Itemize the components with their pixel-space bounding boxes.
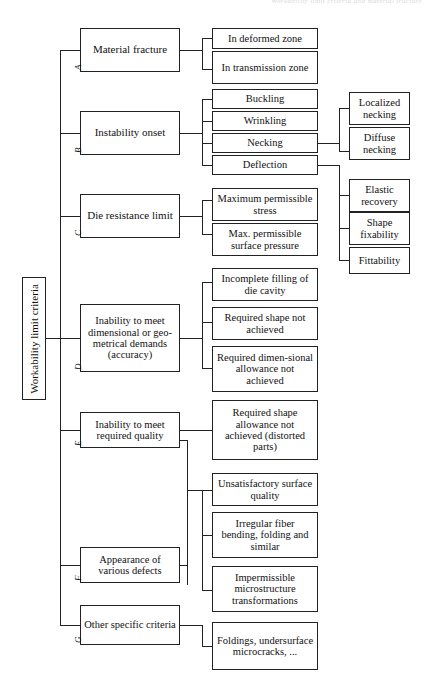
connector-c-c1 — [202, 200, 212, 201]
connector-necking-spine — [339, 108, 340, 151]
connector-spine-b — [60, 133, 80, 134]
branch-tag-a: A — [74, 65, 83, 71]
box-b4-label: Deflection — [216, 159, 314, 170]
page-header-fragment: Workability limit criteria and material … — [0, 0, 426, 9]
box-c1-maximum-permissible-stress[interactable]: Maximum permissible stress — [212, 188, 318, 221]
branch-tag-c: C — [74, 230, 83, 236]
box-n3-elastic-recovery[interactable]: Elastic recovery — [349, 179, 410, 212]
connector-deflection-n4 — [339, 228, 349, 229]
connector-e-e1 — [202, 430, 212, 431]
box-c1-label: Maximum permissible stress — [216, 193, 314, 216]
connector-f-f1 — [202, 490, 212, 491]
connector-b-spine — [202, 99, 203, 165]
connector-a-spine — [202, 38, 203, 69]
connector-a-a1 — [202, 38, 212, 39]
box-d3-required-dimensional-allowance[interactable]: Required dimen-sional allowance not achi… — [212, 346, 318, 392]
box-f3-impermissible-microstructure[interactable]: Impermissible microstructure transformat… — [212, 566, 318, 612]
box-a2-in-transmission-zone[interactable]: In transmission zone — [212, 51, 318, 84]
box-b-instability-onset[interactable]: B Instability onset — [80, 111, 180, 155]
branch-tag-f: F — [74, 576, 83, 582]
connector-d-spine — [202, 282, 203, 368]
box-d-inability-dimensional[interactable]: D Inability to meet dimensional or geo-m… — [80, 304, 180, 372]
box-c-die-resistance-limit[interactable]: C Die resistance limit — [80, 194, 180, 238]
box-n4-shape-fixability[interactable]: Shape fixability — [349, 212, 410, 245]
branch-tag-e: E — [74, 441, 83, 447]
box-g1-label: Foldings, undersurface microcracks, ... — [216, 635, 314, 658]
box-g-other-specific-criteria[interactable]: G Other specific criteria — [80, 605, 180, 645]
box-a-label: Material fracture — [84, 44, 176, 56]
diagram-canvas: Workability limit criteria and material … — [0, 0, 426, 689]
box-e1-label: Required shape allowance not achieved (d… — [216, 407, 314, 452]
box-a-material-fracture[interactable]: A Material fracture — [80, 28, 180, 72]
connector-c-out — [180, 216, 202, 217]
connector-necking-out — [318, 143, 339, 144]
connector-d-d2 — [202, 322, 212, 323]
box-g1-foldings-undersurface-microcracks[interactable]: Foldings, undersurface microcracks, ... — [212, 622, 318, 670]
box-f1-unsatisfactory-surface-quality[interactable]: Unsatisfactory surface quality — [212, 473, 318, 506]
connector-f-spine — [202, 490, 203, 590]
connector-g-spine — [202, 625, 203, 646]
box-c2-label: Max. permissible surface pressure — [216, 228, 314, 251]
connector-root-stem — [45, 338, 60, 339]
box-f1-label: Unsatisfactory surface quality — [216, 478, 314, 501]
connector-b-b2 — [202, 121, 212, 122]
box-n1-localized-necking[interactable]: Localized necking — [349, 92, 410, 125]
box-e-inability-quality[interactable]: E Inability to meet required quality — [80, 412, 180, 448]
box-b1-buckling[interactable]: Buckling — [212, 89, 318, 109]
connector-a-out — [180, 50, 202, 51]
connector-f-f2 — [202, 535, 212, 536]
box-f-label: Appearance of various defects — [84, 554, 176, 577]
connector-spine-c — [60, 216, 80, 217]
box-c-label: Die resistance limit — [84, 210, 176, 222]
connector-spine-d — [60, 338, 80, 339]
box-n2-diffuse-necking[interactable]: Diffuse necking — [349, 127, 410, 160]
box-c2-max-permissible-surface-pressure[interactable]: Max. permissible surface pressure — [212, 223, 318, 256]
connector-deflection-n5 — [339, 260, 349, 261]
root-box-workability-limit-criteria[interactable]: Workability limit criteria — [22, 277, 46, 400]
connector-f-out — [180, 565, 187, 566]
connector-deflection-out — [318, 165, 339, 166]
connector-c-c2 — [202, 234, 212, 235]
connector-spine-a — [60, 50, 80, 51]
box-d2-required-shape-not-achieved[interactable]: Required shape not achieved — [212, 307, 318, 340]
box-a1-in-deformed-zone[interactable]: In deformed zone — [212, 28, 318, 49]
box-n4-label: Shape fixability — [353, 217, 406, 240]
box-f2-irregular-fiber-bending[interactable]: Irregular fiber bending, folding and sim… — [212, 512, 318, 558]
connector-d-out — [180, 338, 202, 339]
connector-g-g1 — [202, 646, 212, 647]
box-n5-label: Fittability — [353, 255, 406, 266]
box-b4-deflection[interactable]: Deflection — [212, 155, 318, 175]
box-b-label: Instability onset — [84, 127, 176, 139]
branch-tag-d: D — [74, 364, 83, 371]
connector-b-out — [180, 133, 202, 134]
box-e1-required-shape-allowance[interactable]: Required shape allowance not achieved (d… — [212, 400, 318, 460]
connector-f-f3 — [202, 590, 212, 591]
connector-deflection-n3 — [339, 195, 349, 196]
connector-e-out — [180, 430, 202, 431]
box-n5-fittability[interactable]: Fittability — [349, 247, 410, 274]
connector-b-b3 — [202, 143, 212, 144]
connector-d-d3 — [202, 368, 212, 369]
connector-b-b4 — [202, 165, 212, 166]
box-n3-label: Elastic recovery — [353, 184, 406, 207]
connector-spine-e — [60, 430, 80, 431]
connector-deflection-riser — [339, 165, 340, 195]
box-f2-label: Irregular fiber bending, folding and sim… — [216, 518, 314, 552]
connector-necking-n2 — [339, 151, 349, 152]
branch-tag-g: G — [74, 637, 83, 644]
box-d1-incomplete-filling[interactable]: Incomplete filling of die cavity — [212, 268, 318, 301]
box-f3-label: Impermissible microstructure transformat… — [216, 572, 314, 606]
box-b3-necking[interactable]: Necking — [212, 133, 318, 153]
box-b2-wrinkling[interactable]: Wrinkling — [212, 111, 318, 131]
connector-f-bridge — [187, 490, 202, 491]
connector-g-out — [180, 625, 202, 626]
connector-d-d1 — [202, 282, 212, 283]
box-f-appearance-defects[interactable]: F Appearance of various defects — [80, 547, 180, 583]
box-d2-label: Required shape not achieved — [216, 312, 314, 335]
connector-f-riser — [187, 440, 188, 585]
branch-tag-b: B — [74, 148, 83, 154]
connector-spine-f — [60, 565, 80, 566]
connector-c-spine — [202, 200, 203, 234]
connector-a-a2 — [202, 69, 212, 70]
box-b2-label: Wrinkling — [216, 115, 314, 126]
